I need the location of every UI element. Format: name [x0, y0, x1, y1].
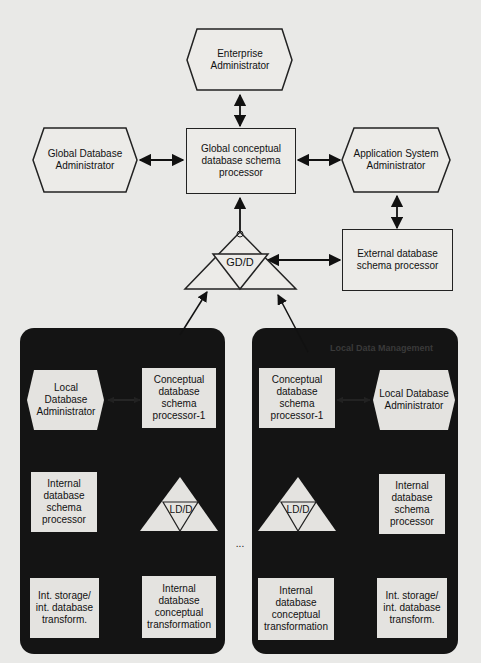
global-conceptual-processor: Global conceptual database schema proces…	[186, 128, 296, 194]
left-conceptual-processor: Conceptual database schema processor-1	[142, 368, 216, 428]
global-db-admin: Global Database Administrator	[44, 135, 126, 185]
diagram-lines	[0, 0, 481, 663]
gdd-label: GD/D	[218, 255, 262, 269]
left-internal-processor: Internal database schema processor	[31, 472, 97, 532]
right-ldd-label: LD/D	[279, 503, 317, 517]
right-conceptual-transform: Internal database conceptual transformat…	[258, 578, 334, 640]
external-db-processor: External database schema processor	[342, 229, 453, 291]
right-local-admin: Local Database Administrator	[377, 372, 451, 428]
right-storage-transform: Int. storage/ int. database transform.	[377, 578, 447, 638]
app-system-admin: Application System Administrator	[352, 135, 440, 185]
enterprise-admin: Enterprise Administrator	[196, 40, 284, 80]
left-conceptual-transform: Internal database conceptual transformat…	[142, 576, 216, 638]
left-ldd-label: LD/D	[162, 503, 200, 517]
right-internal-processor: Internal database schema processor	[379, 474, 445, 534]
right-conceptual-processor: Conceptual database schema processor-1	[259, 368, 335, 428]
left-local-admin: Local Database Administrator	[32, 372, 100, 428]
ellipsis: ...	[228, 538, 252, 550]
left-storage-transform: Int. storage/ int. database transform.	[30, 578, 99, 638]
